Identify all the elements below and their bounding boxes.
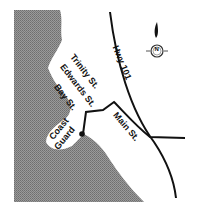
map: N Hwy 101 Trinity St. Edwards St. Bay St…	[0, 0, 197, 215]
coast-guard-marker	[79, 131, 85, 137]
water-area	[14, 10, 144, 202]
map-graphics	[0, 0, 197, 215]
hwy-101-road	[110, 12, 176, 198]
compass-label: N	[155, 46, 159, 52]
